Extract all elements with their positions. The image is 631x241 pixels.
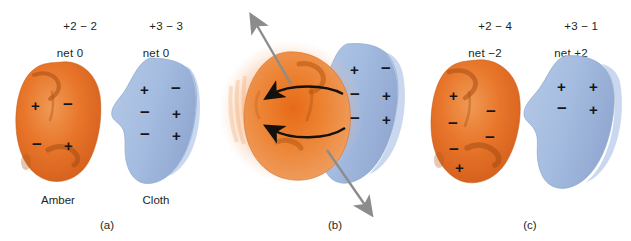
charge-sign-plus: + [455,160,464,175]
charge-sign-plus: + [64,138,73,153]
charge-sign-minus: − [557,101,567,116]
charge-sign-plus: + [382,88,391,103]
charge-sign-minus: − [485,130,495,145]
charge-sign-plus: + [140,82,149,97]
cloth-object-a [112,58,200,184]
charge-sign-minus: − [381,61,391,76]
charge-sign-plus: + [31,98,40,113]
cloth-object-c [524,56,622,189]
charge-sign-minus: − [32,137,42,152]
panel-b: + − − + − + (b) [215,0,415,241]
charge-sign-plus: + [589,102,598,117]
charge-sign-plus: + [172,128,181,143]
panel-label-c: (c) [490,219,570,231]
amber-material-label: Amber [18,194,98,206]
charge-sign-minus: − [350,87,360,102]
charge-sign-minus: − [140,127,150,142]
charge-sign-plus: + [382,112,391,127]
charge-sign-minus: − [140,105,150,120]
panel-c: +2 − 4 net −2 +3 − 1 net +2 [415,0,631,241]
charge-sign-plus: + [589,79,598,94]
panel-label-b: (b) [295,219,375,231]
charge-sign-minus: − [448,116,458,131]
charge-sign-minus: − [63,97,73,112]
charge-sign-minus: − [350,111,360,126]
figure-charging-by-friction: +2 − 2 net 0 +3 − 3 net 0 [0,0,631,241]
panel-label-a: (a) [67,219,147,231]
cloth-material-label: Cloth [116,194,196,206]
charge-sign-minus: − [486,104,496,119]
panel-a: +2 − 2 net 0 +3 − 3 net 0 [0,0,215,241]
charge-sign-minus: − [449,142,459,157]
amber-object-c [431,60,520,183]
charge-sign-plus: + [172,106,181,121]
charge-sign-plus: + [557,79,566,94]
charge-sign-plus: + [449,88,458,103]
charge-sign-plus: + [350,62,359,77]
amber-object-a [16,62,101,182]
charge-sign-minus: − [171,81,181,96]
